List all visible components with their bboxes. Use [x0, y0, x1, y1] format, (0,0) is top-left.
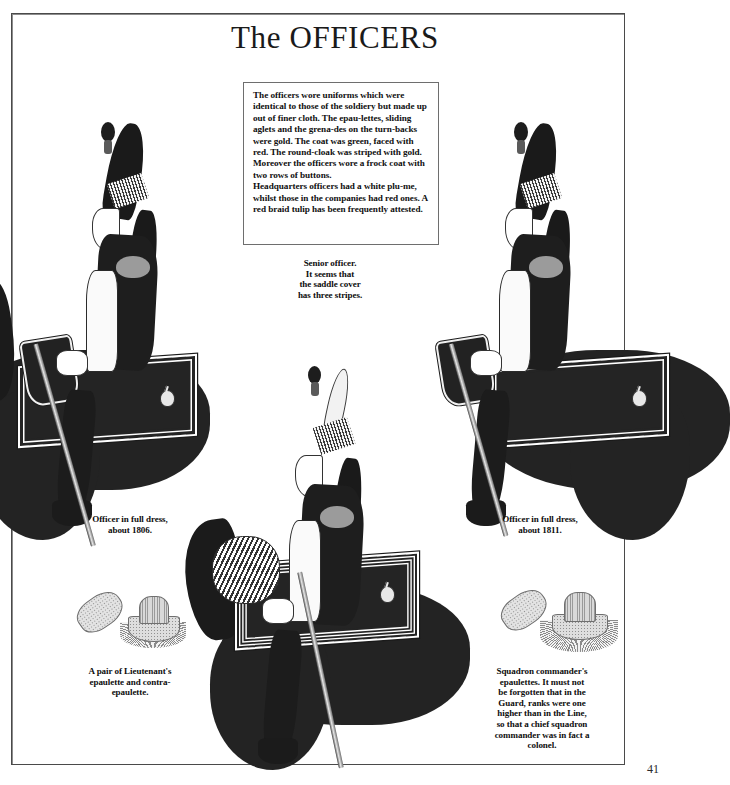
epaulette-worn-center — [320, 506, 354, 528]
grenade-badge-left — [160, 390, 175, 407]
colpack-cords-center — [313, 417, 356, 455]
page-number: 41 — [647, 762, 659, 777]
stirrup-center — [258, 738, 298, 764]
page-title: The OFFICERS — [0, 20, 670, 56]
caption-epaulette-lieutenant: A pair of Lieutenant's epaulette and con… — [30, 666, 230, 698]
breeches-left — [86, 270, 118, 372]
glove-center — [262, 598, 294, 624]
description-box: The officers wore uniforms which were id… — [243, 82, 439, 245]
epaulette-strap-left — [139, 596, 169, 624]
epaulette-strap-right — [564, 592, 596, 622]
grenade-badge-right — [632, 390, 647, 407]
plume-holder-left — [104, 140, 112, 154]
description-text: The officers wore uniforms which were id… — [253, 90, 430, 215]
plume-left — [101, 122, 115, 142]
round-cloak-striped-center — [212, 536, 280, 604]
plume-holder-center — [311, 382, 319, 396]
caption-epaulette-squadron-commander: Squadron commander's epaulettes. It must… — [452, 666, 632, 751]
glove-right — [470, 350, 502, 376]
plume-holder-right — [517, 140, 525, 154]
plume-right — [514, 122, 528, 142]
glove-left — [56, 350, 88, 376]
epaulette-worn-right — [529, 256, 563, 278]
grenade-badge-center — [380, 586, 395, 603]
epaulette-pair-lieutenant — [72, 592, 202, 654]
caption-officer-1811: Officer in full dress, about 1811. — [440, 514, 640, 535]
epaulette-worn-left — [116, 256, 150, 278]
figure-senior-officer — [190, 330, 450, 770]
caption-officer-1806: Officer in full dress, about 1806. — [30, 514, 230, 535]
figure-officer-1811 — [420, 60, 660, 520]
breeches-right — [499, 270, 531, 372]
caption-senior-officer: Senior officer. It seems that the saddle… — [255, 258, 405, 300]
epaulette-pair-squadron-commander — [496, 588, 626, 658]
